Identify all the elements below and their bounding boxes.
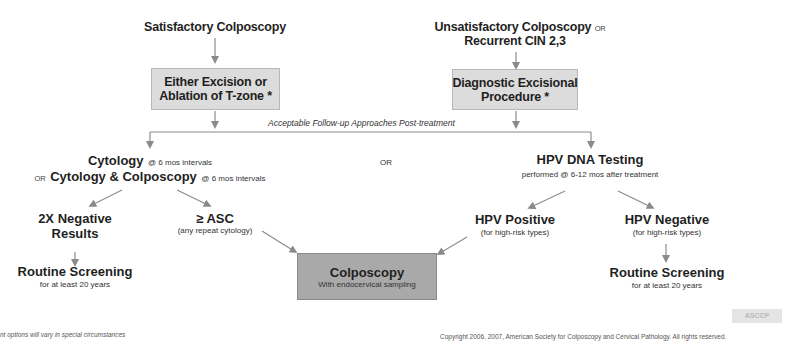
cytology-colposcopy-line2: OR Cytology & Colposcopy @ 6 mos interva… bbox=[30, 167, 270, 185]
hpv-negative-title: HPV Negative bbox=[612, 212, 722, 227]
excision-ablation-box: Either Excision or Ablation of T-zone * bbox=[151, 68, 280, 110]
diagnostic-excisional-box: Diagnostic Excisional Procedure * bbox=[452, 69, 578, 110]
cytology-title: Cytology bbox=[88, 153, 144, 168]
hpv-dna-testing-note: performed @ 6-12 mos after treatment bbox=[510, 170, 670, 179]
hpv-positive-title: HPV Positive bbox=[460, 212, 570, 227]
excision-ablation-line1: Either Excision or bbox=[164, 75, 267, 89]
acceptable-followup-label: Acceptable Follow-up Approaches Post-tre… bbox=[268, 118, 455, 128]
excision-ablation-line2: Ablation of T-zone * bbox=[159, 89, 272, 103]
asc-note: (any repeat cytology) bbox=[165, 226, 265, 235]
hpv-dna-testing-title: HPV DNA Testing bbox=[520, 152, 660, 167]
satisfactory-colposcopy-heading: Satisfactory Colposcopy bbox=[140, 20, 290, 34]
copyright: Copyright 2006, 2007, American Society f… bbox=[440, 333, 726, 340]
routine-screening-left-title: Routine Screening bbox=[15, 264, 135, 279]
colposcopy-note: With endocervical sampling bbox=[318, 280, 415, 289]
routine-screening-left-note: for at least 20 years bbox=[15, 280, 135, 289]
negative-results-line2: Results bbox=[20, 226, 130, 241]
hpv-positive-note: (for high-risk types) bbox=[460, 228, 570, 237]
recurrent-cin-heading: Recurrent CIN 2,3 bbox=[430, 34, 600, 48]
footnote: nt options will vary in special circumst… bbox=[0, 331, 125, 338]
cytology-colposcopy-title: Cytology & Colposcopy bbox=[50, 169, 197, 184]
or-label: OR bbox=[595, 24, 606, 33]
or-label-left: OR bbox=[35, 174, 46, 183]
routine-screening-right-note: for at least 20 years bbox=[607, 281, 727, 290]
hpv-negative-note: (for high-risk types) bbox=[612, 228, 722, 237]
colposcopy-title: Colposcopy bbox=[330, 265, 404, 280]
asccp-logo: ASCCP bbox=[732, 309, 782, 323]
routine-screening-right-title: Routine Screening bbox=[607, 265, 727, 280]
colposcopy-box: Colposcopy With endocervical sampling bbox=[297, 253, 437, 300]
negative-results-line1: 2X Negative bbox=[20, 211, 130, 226]
cytology-colposcopy-interval: @ 6 mos intervals bbox=[201, 174, 265, 183]
asc-title: ≥ ASC bbox=[175, 211, 255, 226]
unsatisfactory-colposcopy-label: Unsatisfactory Colposcopy bbox=[435, 20, 592, 34]
middle-or-label: OR bbox=[374, 158, 398, 167]
cytology-interval: @ 6 mos intervals bbox=[148, 158, 212, 167]
unsatisfactory-colposcopy-heading: Unsatisfactory Colposcopy OR bbox=[430, 20, 610, 34]
diagnostic-excisional-line2: Procedure * bbox=[481, 90, 549, 104]
diagnostic-excisional-line1: Diagnostic Excisional bbox=[453, 76, 578, 90]
